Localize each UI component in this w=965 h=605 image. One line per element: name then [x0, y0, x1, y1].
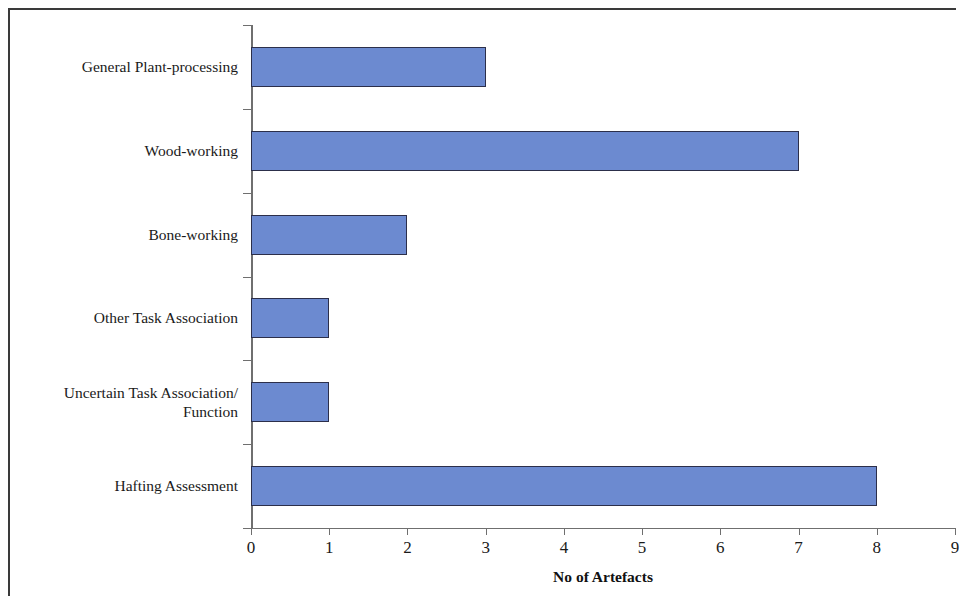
x-axis-tick [564, 528, 565, 535]
x-axis-tick-label-4: 4 [544, 538, 584, 558]
bar-uncertain-task-association[interactable] [251, 382, 329, 422]
y-axis-tick [243, 277, 252, 278]
x-axis-tick-label-8: 8 [857, 538, 897, 558]
y-axis-label-uncertain-task-association: Uncertain Task Association/ Function [0, 383, 238, 421]
y-axis-label-wood-working: Wood-working [0, 141, 238, 160]
y-axis-label-hafting-assessment: Hafting Assessment [0, 476, 238, 495]
x-axis-tick-label-2: 2 [387, 538, 427, 558]
bar-chart-plot-area: General Plant-processing Wood-working Bo… [0, 0, 965, 605]
x-axis-tick-label-5: 5 [622, 538, 662, 558]
x-axis-tick-label-0: 0 [231, 538, 271, 558]
y-axis-tick [243, 193, 252, 194]
y-axis-tick [243, 25, 252, 26]
y-axis-label-general-plant-processing: General Plant-processing [0, 57, 238, 76]
bar-wood-working[interactable] [251, 131, 799, 171]
y-axis-tick [243, 109, 252, 110]
x-axis-tick-label-9: 9 [935, 538, 965, 558]
y-axis-label-other-task-association: Other Task Association [0, 308, 238, 327]
x-axis-tick [329, 528, 330, 535]
bar-bone-working[interactable] [251, 215, 407, 255]
x-axis-tick-label-1: 1 [309, 538, 349, 558]
bar-hafting-assessment[interactable] [251, 466, 877, 506]
x-axis-tick-label-3: 3 [466, 538, 506, 558]
x-axis-tick-label-6: 6 [700, 538, 740, 558]
x-axis-tick [642, 528, 643, 535]
x-axis-tick [799, 528, 800, 535]
x-axis-tick [251, 520, 252, 535]
x-axis-tick [877, 528, 878, 535]
x-axis-tick [955, 528, 956, 535]
x-axis-title: No of Artefacts [251, 568, 955, 586]
x-axis-tick-label-7: 7 [779, 538, 819, 558]
bar-other-task-association[interactable] [251, 298, 329, 338]
y-axis-tick [243, 444, 252, 445]
x-axis-line [251, 528, 955, 529]
x-axis-tick [486, 528, 487, 535]
y-axis-label-bone-working: Bone-working [0, 225, 238, 244]
x-axis-tick [407, 528, 408, 535]
bar-general-plant-processing[interactable] [251, 47, 486, 87]
x-axis-tick [720, 528, 721, 535]
y-axis-tick [243, 360, 252, 361]
